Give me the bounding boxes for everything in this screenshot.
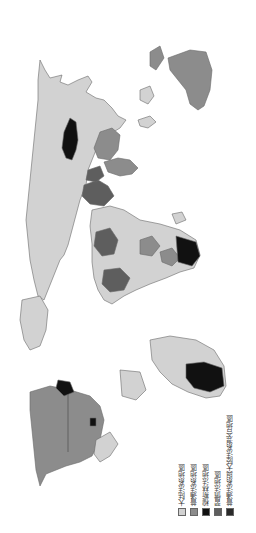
madagascar bbox=[172, 212, 186, 224]
map-legend: 大陆法系地區 普通法系地區 穆斯林法地區 習慣法地區 普通法系與大陸法系混合地區 bbox=[176, 436, 246, 516]
legend-label: 習慣法地區 bbox=[214, 471, 222, 506]
legend-label: 穆斯林法地區 bbox=[202, 464, 210, 506]
north-america bbox=[30, 386, 104, 486]
greenland bbox=[20, 296, 48, 350]
legend-swatch bbox=[178, 508, 186, 516]
legend-item-mixed-law: 普通法系與大陸法系混合地區 bbox=[224, 415, 236, 516]
legend-swatch bbox=[202, 508, 210, 516]
central-america bbox=[120, 370, 146, 400]
legend-item-common-law: 普通法系地區 bbox=[188, 464, 200, 516]
quebec-mixed bbox=[90, 418, 96, 426]
legend-swatch bbox=[214, 508, 222, 516]
legend-label: 普通法系與大陸法系混合地區 bbox=[226, 415, 234, 506]
japan-islands bbox=[150, 46, 164, 70]
legend-label: 普通法系地區 bbox=[190, 464, 198, 506]
legend-swatch bbox=[226, 508, 234, 516]
legend-item-customary-law: 習慣法地區 bbox=[212, 471, 224, 516]
legend-item-muslim-law: 穆斯林法地區 bbox=[200, 464, 212, 516]
legend-swatch bbox=[190, 508, 198, 516]
legend-label: 大陆法系地區 bbox=[178, 464, 186, 506]
legend-item-civil-law: 大陆法系地區 bbox=[176, 464, 188, 516]
arabia-region bbox=[82, 180, 114, 206]
south-asia-region bbox=[104, 158, 138, 176]
southeast-asia-islands bbox=[140, 86, 154, 104]
philippines-islands bbox=[138, 116, 156, 128]
australia bbox=[168, 50, 212, 110]
